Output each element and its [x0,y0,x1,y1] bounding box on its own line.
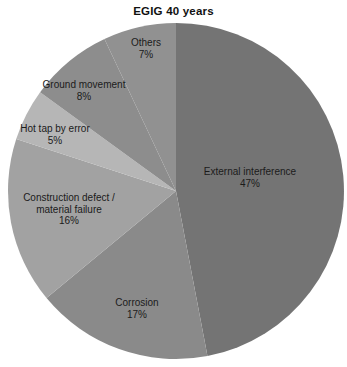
slice-label-line: Construction defect / [23,192,115,204]
slice-label-line: 17% [115,308,158,320]
slice-label: External interference47% [204,166,296,189]
slice-label-line: 8% [43,90,126,102]
slice-label: Ground movement8% [43,79,126,102]
slice-label: Construction defect /material failure16% [23,192,115,227]
slice-label-line: Corrosion [115,297,158,309]
slice-label-line: Ground movement [43,79,126,91]
pie-slice [176,23,344,356]
pie-chart-figure: EGIG 40 years External interference47%Co… [0,0,347,367]
slice-label-line: material failure [23,203,115,215]
slice-label-line: 5% [20,134,89,146]
slice-label-line: Others [131,37,161,49]
slice-label: Others7% [131,37,161,60]
slice-label-line: 47% [204,177,296,189]
slice-label-line: 16% [23,215,115,227]
slice-label-line: Hot tap by error [20,123,89,135]
slice-label-line: 7% [131,48,161,60]
slice-label-line: External interference [204,166,296,178]
slice-label: Corrosion17% [115,297,158,320]
slice-label: Hot tap by error5% [20,123,89,146]
